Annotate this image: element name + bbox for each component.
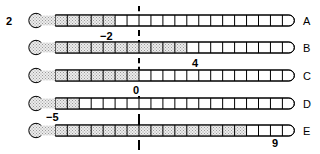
row-label-e: E (303, 125, 310, 137)
thermometer-tube-a (0, 11, 320, 37)
thermometer-row-a: A (0, 11, 320, 37)
row-label-a: A (303, 15, 310, 27)
thermometer-tube-b (0, 38, 320, 64)
row-label-d: D (303, 98, 311, 110)
thermometer-row-b: B (0, 38, 320, 64)
row-label-b: B (303, 42, 310, 54)
value-label-e: 9 (272, 137, 278, 149)
thermometer-diagram: 2 A −2 B 4 C 0 D −5 E 9 (0, 0, 320, 154)
thermometer-row-c: C (0, 66, 320, 92)
row-label-c: C (303, 70, 311, 82)
thermometer-tube-c (0, 66, 320, 92)
